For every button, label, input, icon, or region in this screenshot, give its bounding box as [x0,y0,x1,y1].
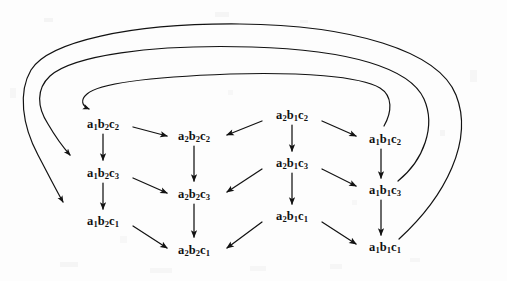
node-a1b1c1[interactable]: a1b1c1 [369,241,401,254]
edge-a1b2c2-to-a2b2c2 [133,127,167,136]
node-a1b1c2[interactable]: a1b1c2 [369,133,401,146]
edge-a2b1c2-to-a2b2c2 [227,121,262,135]
node-a1b1c3[interactable]: a1b1c3 [369,184,401,197]
graph-edges [0,0,507,281]
edge-a2b1c2-to-a1b1c2 [322,121,356,136]
edge-a1b2c3-to-a2b2c3 [133,178,167,193]
feedback-arc-middle [40,47,429,181]
node-a2b1c1[interactable]: a2b1c1 [276,210,308,223]
diagram-canvas: a1b2c2 a1b2c3 a1b2c1 a2b2c2 a2b2c3 a2b2c… [0,0,507,281]
node-a2b2c3[interactable]: a2b2c3 [178,188,210,201]
feedback-arc-inner [83,74,390,126]
edge-a2b1c3-to-a2b2c3 [227,169,262,192]
edge-a2b1c1-to-a1b1c1 [322,222,356,244]
node-a1b2c1[interactable]: a1b2c1 [87,215,119,228]
node-a1b2c2[interactable]: a1b2c2 [87,118,119,131]
edge-a1b2c1-to-a2b2c1 [133,226,167,248]
node-a2b1c3[interactable]: a2b1c3 [276,157,308,170]
node-a1b2c3[interactable]: a1b2c3 [87,167,119,180]
node-a2b1c2[interactable]: a2b1c2 [276,109,308,122]
edge-a2b1c1-to-a2b2c1 [227,222,262,248]
edge-a2b1c3-to-a1b1c3 [322,169,356,186]
node-a2b2c2[interactable]: a2b2c2 [178,130,210,143]
node-a2b2c1[interactable]: a2b2c1 [178,244,210,257]
